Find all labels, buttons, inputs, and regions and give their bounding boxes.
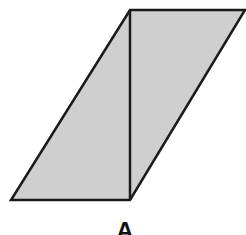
- parallelogram-shape: [11, 10, 245, 200]
- parallelogram-diagram: [0, 0, 246, 235]
- figure-label: A: [110, 219, 140, 235]
